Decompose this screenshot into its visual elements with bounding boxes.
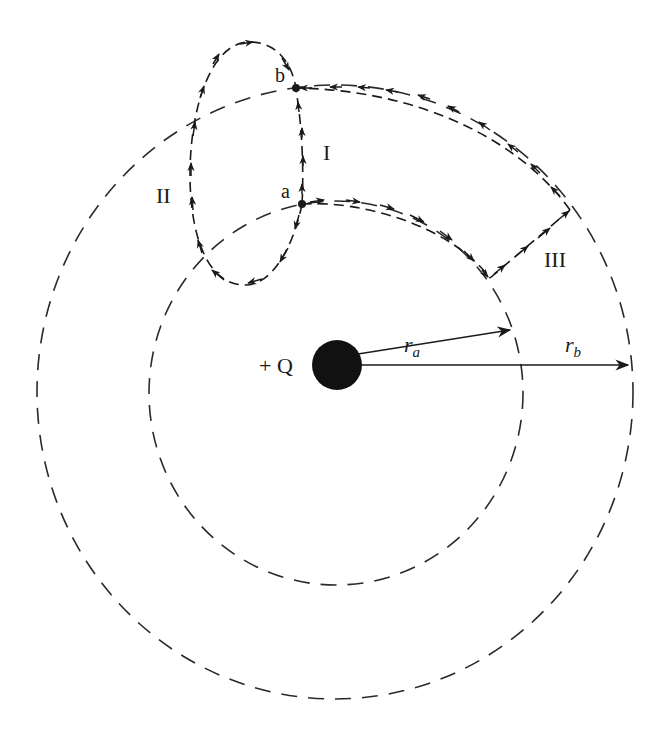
- radius-ra-arrow: [358, 330, 510, 354]
- path-I-label: I: [323, 140, 330, 165]
- diagram-canvas: a b I II III + Q ra rb: [0, 0, 663, 740]
- charge-label: + Q: [259, 353, 293, 378]
- inner-equipotential-circle: [149, 201, 523, 585]
- path-II-label: II: [156, 183, 171, 208]
- point-b-dot: [292, 84, 300, 92]
- charge-sphere: [312, 340, 362, 390]
- point-a-dot: [298, 200, 306, 208]
- ra-label: ra: [404, 332, 420, 360]
- outer-equipotential-circle: [37, 85, 633, 699]
- point-b-label: b: [275, 64, 285, 86]
- path-II: [190, 42, 302, 285]
- path-III-label: III: [544, 247, 566, 272]
- point-a-label: a: [281, 180, 290, 202]
- rb-label: rb: [565, 332, 582, 360]
- path-I: [296, 90, 303, 204]
- path-III: [296, 87, 570, 278]
